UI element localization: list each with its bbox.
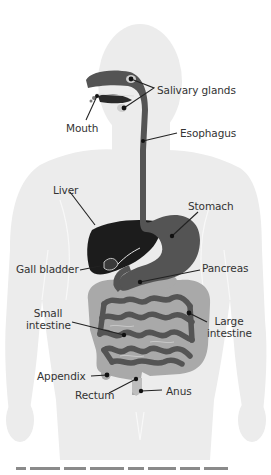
label-rectum: Rectum [75,389,114,401]
figure-caption-truncated [16,467,256,475]
label-large-intestine: Large intestine [207,315,251,339]
label-appendix: Appendix [37,370,86,382]
anatomy-illustration [0,0,271,475]
label-large-intestine-line1: Large [207,315,251,327]
label-small-intestine: Small intestine [26,307,70,331]
label-liver: Liver [53,184,78,196]
label-salivary-glands: Salivary glands [157,84,236,96]
label-gall-bladder: Gall bladder [16,263,79,275]
label-pancreas: Pancreas [202,262,248,274]
label-small-intestine-line2: intestine [26,319,70,331]
label-mouth: Mouth [66,122,98,134]
label-small-intestine-line1: Small [26,307,70,319]
label-stomach: Stomach [188,200,234,212]
label-large-intestine-line2: intestine [207,327,251,339]
label-esophagus: Esophagus [180,127,236,139]
label-anus: Anus [166,385,192,397]
digestive-system-diagram: Salivary glands Mouth Esophagus Liver St… [0,0,271,475]
